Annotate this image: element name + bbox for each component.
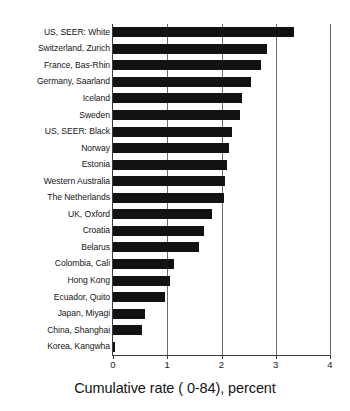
bar bbox=[113, 226, 204, 236]
bar bbox=[113, 276, 170, 286]
category-label: Sweden bbox=[0, 111, 110, 120]
bar bbox=[113, 77, 251, 87]
category-label: US, SEER: Black bbox=[0, 127, 110, 136]
category-label: The Netherlands bbox=[0, 193, 110, 202]
category-label: Hong Kong bbox=[0, 276, 110, 285]
y-axis-line bbox=[112, 24, 113, 355]
category-label: Germany, Saarland bbox=[0, 77, 110, 86]
bar bbox=[113, 143, 229, 153]
tick-label: 3 bbox=[266, 359, 286, 370]
category-label: China, Shanghai bbox=[0, 326, 110, 335]
category-label: Colombia, Cali bbox=[0, 259, 110, 268]
bar bbox=[113, 110, 240, 120]
plot-area bbox=[113, 24, 330, 355]
bar bbox=[113, 259, 174, 269]
tick-label: 2 bbox=[212, 359, 232, 370]
category-label: Belarus bbox=[0, 243, 110, 252]
bar bbox=[113, 127, 232, 137]
bar bbox=[113, 342, 115, 352]
gridline bbox=[330, 24, 331, 355]
category-axis-labels: US, SEER: WhiteSwitzerland, ZurichFrance… bbox=[0, 20, 110, 351]
gridline bbox=[276, 24, 277, 355]
category-label: Iceland bbox=[0, 94, 110, 103]
category-label: Korea, Kangwha bbox=[0, 342, 110, 351]
category-label: Switzerland, Zurich bbox=[0, 44, 110, 53]
bar bbox=[113, 160, 227, 170]
category-label: Western Australia bbox=[0, 177, 110, 186]
category-label: Estonia bbox=[0, 160, 110, 169]
plot-wrapper: US, SEER: WhiteSwitzerland, ZurichFrance… bbox=[0, 20, 350, 360]
category-label: Norway bbox=[0, 144, 110, 153]
x-axis-title: Cumulative rate ( 0-84), percent bbox=[0, 380, 350, 397]
tick-label: 4 bbox=[320, 359, 340, 370]
bar-chart-figure: US, SEER: WhiteSwitzerland, ZurichFrance… bbox=[0, 0, 350, 411]
category-label: Japan, Miyagi bbox=[0, 309, 110, 318]
tick-label: 1 bbox=[157, 359, 177, 370]
bar bbox=[113, 27, 294, 37]
bar bbox=[113, 292, 165, 302]
bar bbox=[113, 176, 225, 186]
bar bbox=[113, 325, 142, 335]
bar bbox=[113, 193, 224, 203]
gridline bbox=[222, 24, 223, 355]
bar bbox=[113, 242, 199, 252]
bar bbox=[113, 93, 242, 103]
x-axis-ticks: 01234 bbox=[113, 355, 333, 371]
category-label: France, Bas-Rhin bbox=[0, 61, 110, 70]
category-label: US, SEER: White bbox=[0, 28, 110, 37]
bar bbox=[113, 309, 145, 319]
gridline bbox=[167, 24, 168, 355]
bar bbox=[113, 44, 267, 54]
tick-label: 0 bbox=[103, 359, 123, 370]
bar bbox=[113, 209, 212, 219]
category-label: Ecuador, Quito bbox=[0, 293, 110, 302]
category-label: Croatia bbox=[0, 226, 110, 235]
bar bbox=[113, 60, 261, 70]
category-label: UK, Oxford bbox=[0, 210, 110, 219]
